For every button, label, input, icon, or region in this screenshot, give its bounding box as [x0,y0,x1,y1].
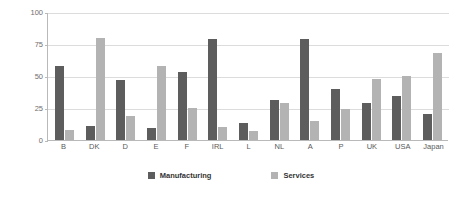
bar-series-container [49,13,448,140]
bar-manufacturing [270,100,279,140]
bar-group [202,13,233,140]
bar-group [387,13,418,140]
bar-group [110,13,141,140]
bar-manufacturing [239,123,248,140]
plot-area: 0255075100 [47,13,448,141]
bar-services [341,109,350,140]
x-axis-category-label: NL [264,143,295,151]
x-axis-category-label: B [48,143,79,151]
y-axis-tick-mark [45,141,48,142]
y-axis-tick-mark [45,45,48,46]
grouped-bar-chart: 0255075100 BDKDEFIRLLNLAPUKUSAJapan Manu… [0,0,462,201]
y-axis-tick-mark [45,13,48,14]
bar-services [96,38,105,140]
bar-services [310,121,319,140]
x-axis-category-label: IRL [202,143,233,151]
bar-services [188,108,197,140]
bar-manufacturing [178,72,187,140]
bar-manufacturing [392,96,401,140]
bar-manufacturing [300,39,309,140]
bar-services [218,127,227,140]
bar-services [372,79,381,140]
bar-manufacturing [362,103,371,140]
bar-manufacturing [208,39,217,140]
bar-group [417,13,448,140]
bar-services [433,53,442,140]
x-axis-category-label: Japan [418,143,449,151]
x-axis-category-label: E [141,143,172,151]
bar-services [402,76,411,140]
y-axis-tick-label: 75 [35,41,43,49]
legend-item-manufacturing[interactable]: Manufacturing [148,172,212,180]
y-axis-tick-mark [45,77,48,78]
chart-legend: ManufacturingServices [0,172,462,180]
legend-label: Services [283,172,314,180]
bar-manufacturing [423,114,432,140]
x-axis-category-label: D [110,143,141,151]
legend-item-services[interactable]: Services [271,172,314,180]
x-axis-category-label: P [326,143,357,151]
bar-services [280,103,289,140]
bar-group [80,13,111,140]
bar-manufacturing [147,128,156,140]
bar-group [264,13,295,140]
bar-group [172,13,203,140]
bar-services [157,66,166,140]
y-axis-tick-label: 100 [30,9,43,17]
bar-manufacturing [331,89,340,140]
bar-group [49,13,80,140]
bar-services [126,116,135,140]
x-axis-category-label: L [233,143,264,151]
x-axis-category-label: A [295,143,326,151]
legend-label: Manufacturing [160,172,212,180]
services-swatch-icon [271,172,278,179]
bar-group [141,13,172,140]
bar-group [233,13,264,140]
y-axis-tick-mark [45,109,48,110]
bar-manufacturing [55,66,64,140]
y-axis-tick-label: 0 [39,137,43,145]
x-axis-category-label: F [171,143,202,151]
bar-services [249,131,258,140]
y-axis-tick-label: 25 [35,105,43,113]
x-axis-category-label: UK [356,143,387,151]
bar-group [295,13,326,140]
y-axis-tick-label: 50 [35,73,43,81]
manufacturing-swatch-icon [148,172,155,179]
bar-services [65,130,74,140]
x-axis-category-label: USA [387,143,418,151]
bar-group [356,13,387,140]
bar-manufacturing [116,80,125,140]
bar-group [325,13,356,140]
x-axis-category-label: DK [79,143,110,151]
bar-manufacturing [86,126,95,140]
x-axis-category-labels: BDKDEFIRLLNLAPUKUSAJapan [48,143,449,151]
